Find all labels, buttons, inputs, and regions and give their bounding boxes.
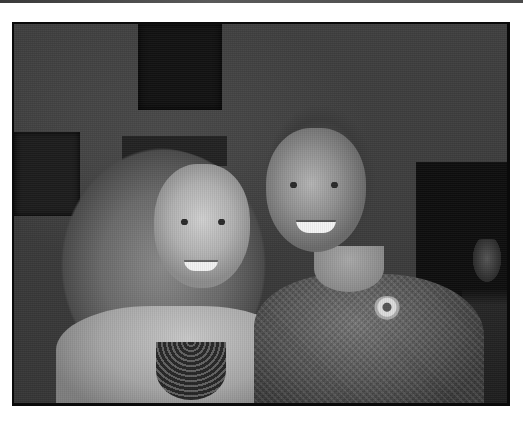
flower-brooch bbox=[372, 296, 402, 324]
photo-scene bbox=[14, 24, 507, 403]
left-woman-eyes bbox=[174, 219, 232, 225]
top-edge-strip bbox=[0, 0, 523, 3]
right-woman-eyes bbox=[282, 182, 346, 188]
photo: Two smiling women posing together indoor… bbox=[12, 22, 510, 406]
right-woman-face bbox=[266, 128, 366, 252]
right-woman-tweed-dress bbox=[254, 274, 484, 406]
background-painting bbox=[138, 24, 222, 110]
beaded-necklace bbox=[156, 342, 226, 400]
right-woman-neck bbox=[314, 246, 384, 292]
